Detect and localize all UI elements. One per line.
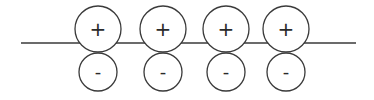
plus-sign: + — [278, 17, 295, 41]
plus-sign: + — [90, 17, 107, 41]
minus-sign: - — [283, 61, 290, 82]
minus-sign: - — [95, 61, 102, 82]
charge-pair-2: + - — [140, 6, 186, 91]
minus-sign: - — [160, 61, 167, 82]
charge-pair-4: + - — [263, 6, 309, 91]
charge-pair-1: + - — [75, 6, 121, 91]
charge-diagram: + - + - + - + - — [0, 0, 374, 100]
minus-sign: - — [223, 61, 230, 82]
plus-sign: + — [155, 17, 172, 41]
charge-pair-3: + - — [203, 6, 249, 91]
plus-sign: + — [218, 17, 235, 41]
